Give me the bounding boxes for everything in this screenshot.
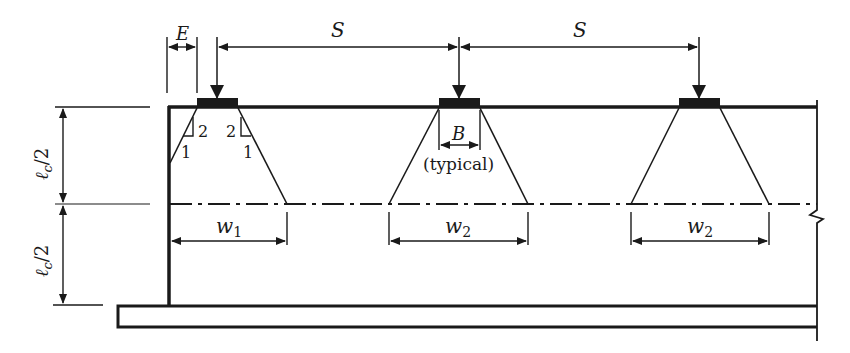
half-height-label-upper: ℓc/2: [31, 148, 55, 180]
bearing-pad-3: [679, 98, 720, 108]
width-label-2a: w2: [445, 214, 471, 240]
edge-distance-label: E: [175, 23, 189, 44]
slope-right-rise: 2: [226, 122, 236, 141]
half-height-label-lower: ℓc/2: [31, 245, 55, 277]
footing: [118, 306, 817, 327]
load-distribution-diagram: E S S B (typical) 2 1 2 1 ℓc/2 ℓc/2: [0, 0, 850, 353]
svg-text:ℓc/2: ℓc/2: [31, 245, 55, 277]
svg-text:ℓc/2: ℓc/2: [31, 148, 55, 180]
slope-right-run: 1: [243, 143, 253, 162]
slope-left-rise: 2: [198, 122, 208, 141]
bearing-pad-2: [439, 98, 480, 108]
typical-note: (typical): [423, 154, 494, 174]
bearing-width-label: B: [451, 123, 465, 144]
bearing-pad-1: [197, 98, 238, 108]
edge-distance-dimension: [167, 37, 197, 93]
load-arrows: [217, 37, 699, 98]
half-height-dimensions: [53, 107, 150, 305]
slope-left-run: 1: [181, 143, 191, 162]
spacing-label-1: S: [331, 18, 345, 42]
spacing-label-2: S: [573, 18, 587, 42]
width-label-2b: w2: [687, 214, 713, 240]
width-label-1: w1: [216, 214, 242, 240]
